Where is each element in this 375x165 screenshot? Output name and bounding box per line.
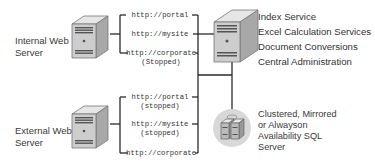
status-stopped: (Stopped) (126, 58, 196, 67)
internal-url-mysite: http://mysite (128, 30, 192, 39)
sql-server-label: Clustered, Mirrored or Alwayson Availabi… (258, 109, 337, 153)
internal-web-server-icon (68, 14, 112, 60)
service-document-conversions: Document Conversions (258, 39, 371, 54)
external-url-corporate: http://corporate (126, 149, 196, 158)
sql-server-cluster-icon (212, 108, 252, 148)
external-url-mysite: http://mysite (stopped) (128, 120, 192, 138)
internal-url-portal: http://portal (128, 11, 192, 20)
service-central-administration: Central Administration (258, 54, 371, 69)
status-stopped: (stopped) (128, 102, 192, 111)
external-url-portal: http://portal (stopped) (128, 93, 192, 111)
internal-url-corporate: http://corporate (Stopped) (126, 49, 196, 67)
internal-web-server-label: Internal Web Server (15, 35, 69, 59)
external-web-server-icon (68, 104, 112, 150)
status-stopped: (stopped) (128, 129, 192, 138)
services-list: Index Service Excel Calculation Services… (258, 9, 371, 69)
service-excel-calculation: Excel Calculation Services (258, 24, 371, 39)
external-web-server-label: External Web Server (15, 125, 72, 149)
service-index: Index Service (258, 9, 371, 24)
application-server-icon (212, 8, 260, 64)
